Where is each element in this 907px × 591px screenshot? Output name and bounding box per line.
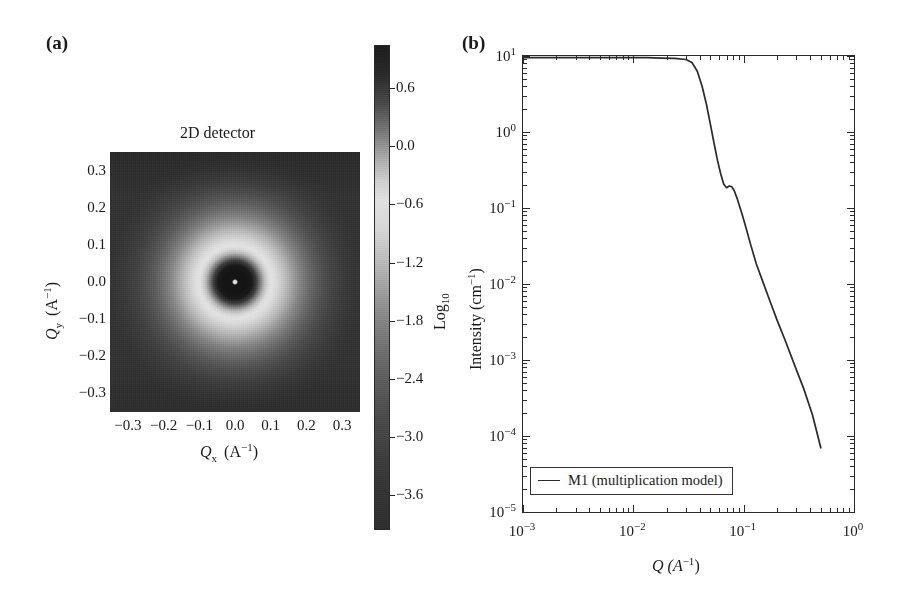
qy-symbol: Q	[43, 328, 60, 340]
panel-b-xtick-mark	[623, 508, 624, 512]
colorbar-tick-mark	[390, 263, 395, 264]
panel-b-ytick-mark	[850, 453, 854, 454]
colorbar-tick-mark	[390, 204, 395, 205]
panel-b-xtick-mark	[556, 56, 557, 60]
panel-b-ytick-mark	[523, 284, 530, 285]
panel-b-ytick-mark	[850, 459, 854, 460]
panel-b-ytick-mark	[523, 314, 527, 315]
panel-b-ytick-mark	[850, 324, 854, 325]
panel-b-ytick: 100	[480, 122, 516, 140]
panel-b-xtick-mark	[616, 508, 617, 512]
panel-a-ytick: −0.2	[66, 348, 106, 363]
panel-b-ytick-mark	[523, 324, 527, 325]
panel-b-xtick-mark	[810, 508, 811, 512]
panel-b-ytick-mark	[850, 144, 854, 145]
panel-b-xtick-mark	[821, 56, 822, 60]
panel-b-xtick-mark	[616, 56, 617, 60]
panel-b-xtick-mark	[576, 508, 577, 512]
panel-b-ytick-mark	[523, 208, 530, 209]
panel-b-xtick: 100	[831, 521, 875, 539]
panel-b-ytick-mark	[850, 109, 854, 110]
panel-a-ytick: −0.1	[66, 311, 106, 326]
panel-b-xtick-mark	[777, 56, 778, 60]
panel-b-ytick-mark	[850, 248, 854, 249]
panel-b-ytick-mark	[847, 512, 854, 513]
panel-b-ytick-mark	[523, 459, 527, 460]
panel-a-xtick: 0.3	[325, 418, 359, 433]
panel-b-xtick-mark	[854, 505, 855, 512]
panel-b-xtick: 10−1	[721, 521, 765, 539]
panel-b-xtick-mark	[600, 56, 601, 60]
panel-b-xaxis-title: Q (A−1)	[652, 556, 700, 574]
panel-b-ytick-mark	[850, 400, 854, 401]
colorbar-tick: −1.8	[396, 313, 423, 328]
panel-b-ytick-mark	[523, 139, 527, 140]
panel-b-xtick-mark	[777, 508, 778, 512]
q-unit-exp: −1	[683, 555, 695, 567]
panel-b-ytick-mark	[850, 291, 854, 292]
panel-b-ytick-mark	[850, 337, 854, 338]
panel-a-xtick: 0.2	[289, 418, 323, 433]
intensity-curve	[523, 56, 854, 512]
panel-b-xtick-mark	[589, 508, 590, 512]
panel-b-xtick-mark	[523, 505, 524, 512]
panel-a-xtick: 0.0	[218, 418, 252, 433]
panel-b-ytick-mark	[850, 314, 854, 315]
panel-b-ytick-mark	[850, 63, 854, 64]
panel-b-xtick-mark	[843, 56, 844, 60]
panel-b-xtick-mark	[821, 508, 822, 512]
panel-b-xtick-mark	[686, 508, 687, 512]
panel-b-ytick-mark	[850, 238, 854, 239]
panel-b-ytick-mark	[523, 367, 527, 368]
panel-b-xtick-mark	[633, 56, 634, 63]
panel-b-ytick-mark	[523, 448, 527, 449]
panel-a-ytick: 0.1	[66, 237, 106, 252]
q-unit-close: )	[694, 557, 699, 574]
panel-b-ytick: 10−1	[480, 198, 516, 216]
panel-b-ytick-mark	[850, 225, 854, 226]
qy-subscript: y	[52, 323, 64, 329]
panel-b-ytick-mark	[850, 68, 854, 69]
panel-b-ytick-mark	[850, 231, 854, 232]
panel-b-ytick-mark	[847, 436, 854, 437]
panel-b-ytick-mark	[850, 162, 854, 163]
panel-b-ytick-mark	[847, 208, 854, 209]
panel-b-ytick-mark	[850, 443, 854, 444]
legend[interactable]: M1 (multiplication model)	[530, 467, 733, 495]
panel-a-ytick: −0.3	[66, 385, 106, 400]
panel-b-ytick-mark	[523, 231, 527, 232]
panel-b-ytick-mark	[523, 172, 527, 173]
panel-b-xtick-mark	[744, 505, 745, 512]
panel-b-xtick-mark	[686, 56, 687, 60]
plot-frame	[522, 55, 855, 513]
colorbar-tick-mark	[390, 495, 395, 496]
panel-b-ytick-mark	[523, 248, 527, 249]
panel-b-ytick-mark	[523, 413, 527, 414]
panel-b-ytick-mark	[850, 363, 854, 364]
panel-b-ytick-mark	[850, 413, 854, 414]
panel-b-ytick-mark	[847, 56, 854, 57]
panel-b-ytick: 10−2	[480, 274, 516, 292]
panel-b-ytick-mark	[523, 68, 527, 69]
panel-a-ytick: 0.0	[66, 274, 106, 289]
panel-b-xtick-mark	[589, 56, 590, 60]
colorbar-tick-mark	[390, 437, 395, 438]
panel-b-xtick-mark	[727, 56, 728, 60]
panel-b-xtick-mark	[719, 508, 720, 512]
colorbar-noise	[375, 46, 389, 529]
panel-b-ytick-mark	[850, 476, 854, 477]
panel-b-ytick-mark	[523, 489, 527, 490]
panel-a-xaxis-title: Qx (A−1)	[200, 442, 258, 464]
panel-b-ytick-mark	[523, 291, 527, 292]
panel-b-xtick-mark	[830, 508, 831, 512]
panel-b-ytick-mark	[523, 400, 527, 401]
panel-b-xtick-mark	[796, 56, 797, 60]
colorbar-tick: −3.0	[396, 429, 423, 444]
panel-b-ytick-mark	[850, 73, 854, 74]
panel-b-xtick-mark	[733, 56, 734, 60]
panel-b-xtick-mark	[739, 508, 740, 512]
panel-b-ytick-mark	[850, 489, 854, 490]
panel-a-tag: (a)	[46, 33, 68, 52]
panel-b-xtick-mark	[700, 56, 701, 60]
panel-b-ytick-mark	[850, 296, 854, 297]
